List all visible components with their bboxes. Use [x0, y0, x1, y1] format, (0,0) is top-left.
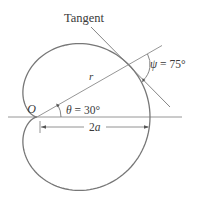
- dimension-arrow-left: [41, 125, 46, 128]
- theta-value: = 30°: [72, 104, 101, 116]
- two-a-label: 2a: [89, 121, 101, 133]
- psi-label: ψ = 75°: [150, 58, 186, 71]
- cardioid-diagram: Tangent O r θ = 30° ψ = 75° 2a: [0, 0, 199, 201]
- radius-label: r: [89, 70, 94, 82]
- origin-label: O: [27, 102, 36, 116]
- theta-angle-arc: [58, 105, 61, 117]
- two-a-variable: a: [95, 121, 101, 133]
- psi-value: = 75°: [157, 58, 186, 70]
- tangent-label: Tangent: [64, 11, 105, 25]
- theta-label: θ = 30°: [66, 104, 100, 116]
- dimension-arrow-right: [144, 125, 149, 128]
